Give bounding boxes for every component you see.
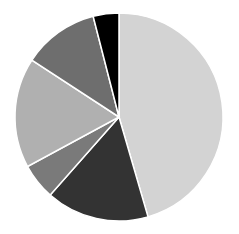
pie-chart <box>0 0 239 234</box>
